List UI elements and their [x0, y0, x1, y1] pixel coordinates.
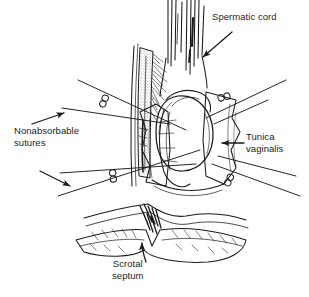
- label-scrotal-septum: Scrotal septum: [112, 258, 143, 281]
- suture-knot-upper-right: [217, 92, 231, 102]
- tunica-anterior-edge: [159, 110, 190, 187]
- arrow-sutures-lower: [40, 171, 70, 186]
- arrow-spermatic-cord: [203, 32, 232, 57]
- suture-knot-upper-left: [99, 94, 110, 108]
- suture-knot-lower-right: [224, 173, 235, 187]
- scrotal-septum-group: [76, 204, 248, 262]
- scrotal-wall-left: [131, 44, 138, 186]
- arrow-sutures-upper: [32, 113, 64, 124]
- label-tunica-vaginalis: Tunica vaginalis: [246, 131, 283, 154]
- spermatic-cord-group: [160, 0, 207, 96]
- suture-knot-lower-left: [109, 169, 117, 182]
- label-nonabsorbable-sutures: Nonabsorbable sutures: [14, 125, 79, 148]
- label-spermatic-cord: Spermatic cord: [212, 11, 277, 23]
- surgical-illustration-figure: Spermatic cord Nonabsorbable sutures Tun…: [0, 0, 309, 297]
